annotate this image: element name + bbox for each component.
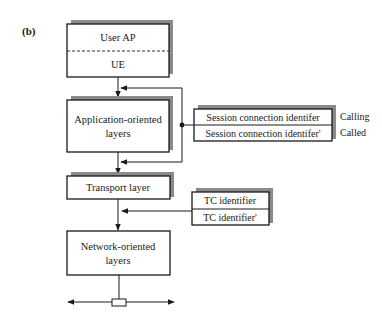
figure-label: (b) — [22, 25, 36, 38]
calling-label: Calling — [340, 111, 369, 122]
ue-label: UE — [111, 59, 125, 70]
transport-label: Transport layer — [86, 182, 151, 193]
network-label-line1: Network-oriented — [81, 241, 156, 252]
network-label-line2: layers — [105, 255, 130, 266]
session-identifier-box: Session connection identifer Session con… — [194, 105, 336, 141]
network-bus — [68, 299, 174, 306]
network-layers-box: Network-oriented layers — [67, 231, 170, 275]
bus-tap-connector — [112, 299, 126, 306]
session-identifier-calling: Session connection identifer — [206, 112, 320, 123]
protocol-stack-diagram: (b) User AP UE Application-oriented laye… — [0, 0, 382, 321]
tc-identifier-1: TC identifier — [204, 195, 257, 206]
called-label: Called — [340, 127, 366, 138]
application-layers-box: Application-oriented layers — [67, 96, 173, 152]
transport-layer-box: Transport layer — [67, 172, 174, 199]
tc-identifier-2: TC identifier' — [203, 212, 257, 223]
application-label-line1: Application-oriented — [74, 114, 162, 125]
user-ap-ue-box: User AP UE — [67, 20, 173, 77]
application-label-line2: layers — [105, 128, 130, 139]
session-identifier-called: Session connection identifer' — [205, 128, 320, 139]
tc-identifier-box: TC identifier TC identifier' — [192, 188, 273, 225]
user-ap-label: User AP — [100, 32, 135, 43]
